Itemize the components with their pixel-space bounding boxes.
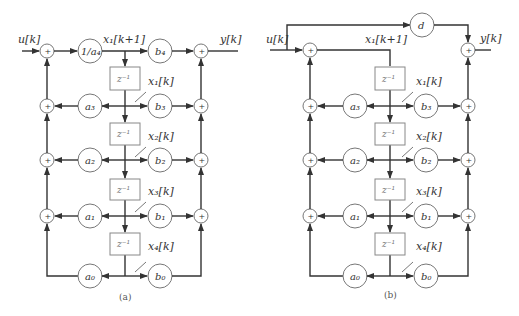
svg-text:1/a₄: 1/a₄: [81, 46, 101, 57]
svg-text:x₃[k]: x₃[k]: [416, 185, 443, 198]
svg-text:z⁻¹: z⁻¹: [381, 129, 395, 139]
svg-text:b₃: b₃: [421, 101, 431, 112]
output-label-a: y[k]: [219, 33, 242, 46]
svg-text:+: +: [199, 212, 206, 221]
svg-text:a₁: a₁: [85, 211, 95, 222]
svg-text:+: +: [199, 102, 206, 111]
svg-text:+: +: [45, 156, 52, 165]
svg-text:b₀: b₀: [155, 271, 165, 282]
svg-text:b₂: b₂: [421, 155, 431, 166]
svg-text:a₃: a₃: [85, 101, 95, 112]
svg-text:z⁻¹: z⁻¹: [116, 239, 130, 249]
svg-text:b₁: b₁: [421, 211, 431, 222]
top-state-label-a: x₁[k+1]: [103, 33, 146, 46]
svg-text:a₁: a₁: [350, 211, 360, 222]
svg-text:a₀: a₀: [85, 271, 95, 282]
gain-direct-d: d: [410, 13, 434, 37]
svg-text:+: +: [308, 156, 315, 165]
svg-text:x₄[k]: x₄[k]: [416, 240, 443, 253]
svg-text:b₃: b₃: [155, 101, 165, 112]
svg-text:z⁻¹: z⁻¹: [116, 74, 130, 84]
svg-text:z⁻¹: z⁻¹: [116, 129, 130, 139]
top-state-label-b: x₁[k+1]: [365, 33, 408, 46]
svg-text:+: +: [308, 46, 315, 55]
caption-a: (a): [119, 292, 131, 302]
block-diagram-canvas: u[k] + + + + 1/a₄ x₁[k+1] z⁻¹ z⁻¹: [0, 0, 519, 316]
svg-text:+: +: [45, 212, 52, 221]
svg-text:a₀: a₀: [350, 271, 360, 282]
svg-text:x₂[k]: x₂[k]: [416, 130, 443, 143]
svg-text:+: +: [466, 46, 473, 55]
svg-text:b₀: b₀: [421, 271, 431, 282]
svg-text:a₃: a₃: [350, 101, 360, 112]
svg-text:z⁻¹: z⁻¹: [381, 185, 395, 195]
svg-text:x₁[k]: x₁[k]: [148, 75, 175, 88]
svg-text:+: +: [199, 156, 206, 165]
input-label-a: u[k]: [18, 33, 41, 46]
svg-text:x₃[k]: x₃[k]: [148, 185, 175, 198]
panel-a: u[k] + + + + 1/a₄ x₁[k+1] z⁻¹ z⁻¹: [18, 33, 242, 302]
svg-text:x₄[k]: x₄[k]: [148, 240, 175, 253]
output-label-b: y[k]: [479, 32, 502, 45]
svg-text:+: +: [308, 102, 315, 111]
svg-text:+: +: [45, 47, 52, 56]
panel-b: u[k] d + + + + x₁[k+1] z⁻¹ z⁻¹ z⁻: [266, 13, 502, 300]
svg-text:a₂: a₂: [85, 155, 95, 166]
svg-text:x₁[k]: x₁[k]: [416, 75, 443, 88]
svg-text:+: +: [466, 212, 473, 221]
input-label-b: u[k]: [266, 33, 289, 46]
svg-text:d: d: [418, 20, 424, 31]
gain-lead-a: 1/a₄: [78, 39, 102, 63]
svg-text:+: +: [466, 156, 473, 165]
svg-text:z⁻¹: z⁻¹: [381, 74, 395, 84]
svg-text:+: +: [308, 212, 315, 221]
svg-text:a₂: a₂: [350, 155, 360, 166]
svg-text:b₂: b₂: [155, 155, 165, 166]
svg-text:b₁: b₁: [155, 211, 165, 222]
svg-text:x₂[k]: x₂[k]: [148, 130, 175, 143]
svg-text:+: +: [45, 102, 52, 111]
svg-text:+: +: [466, 102, 473, 111]
svg-text:b₄: b₄: [155, 46, 165, 57]
caption-b: (b): [384, 290, 397, 300]
svg-text:+: +: [199, 47, 206, 56]
svg-text:z⁻¹: z⁻¹: [381, 239, 395, 249]
svg-text:z⁻¹: z⁻¹: [116, 185, 130, 195]
